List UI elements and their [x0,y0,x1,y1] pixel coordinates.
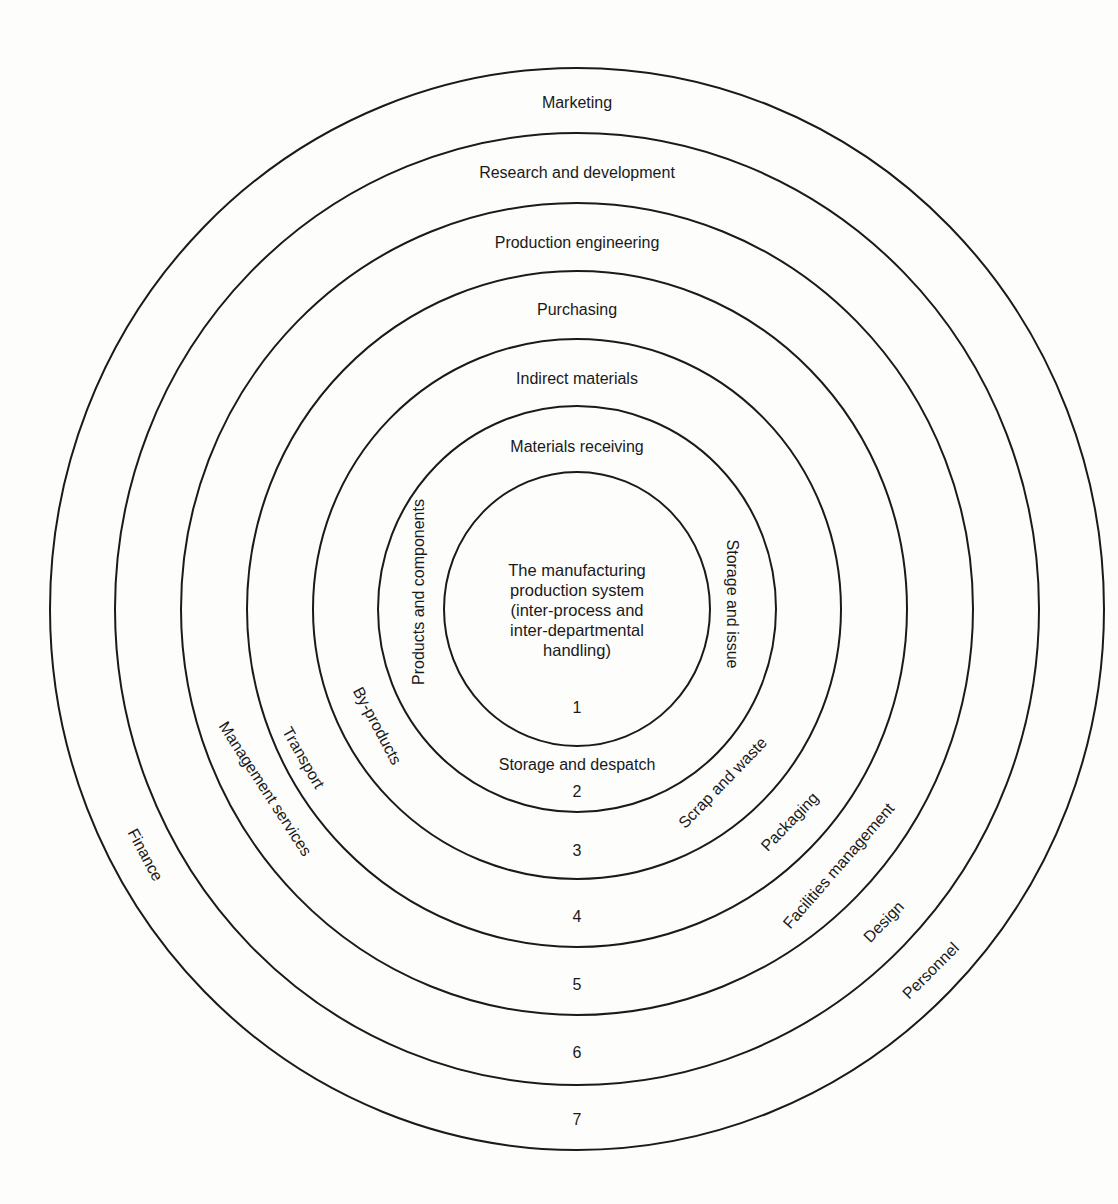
label-materials-receiving: Materials receiving [510,438,643,456]
center-line-2: production system [508,580,646,600]
ring-number-1: 1 [573,699,582,717]
label-storage-and-issue: Storage and issue [723,540,741,669]
label-production-engineering: Production engineering [495,234,660,252]
label-marketing: Marketing [542,94,612,112]
label-research-and-development: Research and development [479,164,675,182]
ring-number-2: 2 [573,783,582,801]
center-line-4: inter-departmental [508,620,646,640]
label-indirect-materials: Indirect materials [516,370,638,388]
label-products-and-components: Products and components [410,499,428,685]
center-line-5: handling) [508,640,646,660]
ring-number-5: 5 [573,976,582,994]
ring-number-6: 6 [573,1044,582,1062]
ring-number-4: 4 [573,908,582,926]
label-purchasing: Purchasing [537,301,617,319]
ring-number-3: 3 [573,842,582,860]
ring-number-7: 7 [573,1111,582,1129]
center-title: The manufacturing production system (int… [508,560,646,660]
center-line-3: (inter-process and [508,600,646,620]
label-storage-and-despatch: Storage and despatch [499,756,656,774]
center-line-1: The manufacturing [508,560,646,580]
